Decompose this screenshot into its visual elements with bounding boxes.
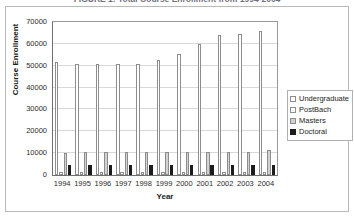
bar-group (196, 22, 216, 175)
bar-group (155, 22, 175, 175)
bar-undergraduate-1995 (75, 64, 78, 175)
chart-legend: UndergraduatePostBachMastersDoctoral (287, 90, 353, 141)
y-tick-label: 0 (43, 170, 47, 179)
legend-item-undergraduate[interactable]: Undergraduate (290, 93, 349, 104)
legend-item-postbach[interactable]: PostBach (290, 104, 349, 115)
x-tick-label: 1997 (115, 179, 132, 188)
bar-masters-2002 (227, 152, 230, 175)
bar-masters-1994 (64, 153, 67, 175)
legend-item-doctoral[interactable]: Doctoral (290, 126, 349, 137)
legend-label: Doctoral (299, 126, 327, 137)
bar-masters-2004 (267, 150, 270, 175)
bar-doctoral-1994 (68, 165, 71, 175)
legend-swatch-icon (290, 129, 296, 135)
x-tick-label: 2001 (196, 179, 213, 188)
bar-doctoral-2000 (190, 165, 193, 175)
x-tick-label: 1996 (95, 179, 112, 188)
bar-doctoral-1996 (109, 165, 112, 175)
x-tick-label: 2004 (257, 179, 274, 188)
bar-masters-2000 (186, 152, 189, 175)
bar-postbach-2004 (263, 172, 266, 175)
bar-postbach-2000 (182, 172, 185, 175)
y-tick-label: 60000 (26, 38, 47, 47)
bar-undergraduate-2002 (218, 35, 221, 175)
y-tick-label: 40000 (26, 82, 47, 91)
bar-group (257, 22, 277, 175)
bar-doctoral-1997 (129, 165, 132, 175)
bar-masters-1996 (104, 152, 107, 175)
legend-swatch-icon (290, 96, 296, 102)
y-tick-label: 30000 (26, 104, 47, 113)
bar-doctoral-1999 (170, 165, 173, 175)
x-tick-label: 2000 (176, 179, 193, 188)
bar-group (53, 22, 73, 175)
bar-postbach-2003 (243, 172, 246, 175)
bar-group (216, 22, 236, 175)
y-tick-label: 50000 (26, 60, 47, 69)
bar-undergraduate-1997 (116, 64, 119, 175)
legend-item-masters[interactable]: Masters (290, 115, 349, 126)
chart-title: FIGURE 1: Total Course Enrollment from 1… (0, 0, 354, 4)
y-tick-label: 20000 (26, 126, 47, 135)
bar-doctoral-1995 (88, 165, 91, 175)
legend-swatch-icon (290, 118, 296, 124)
legend-label: PostBach (299, 104, 331, 115)
bar-undergraduate-1998 (136, 64, 139, 175)
bar-undergraduate-1999 (157, 60, 160, 175)
bar-masters-1995 (84, 152, 87, 175)
bar-postbach-1997 (120, 172, 123, 175)
x-tick-label: 1994 (54, 179, 71, 188)
chart-frame: Course Enrollment 0100002000030000400005… (5, 6, 349, 212)
bar-undergraduate-2001 (198, 44, 201, 175)
bar-undergraduate-2004 (259, 31, 262, 175)
bar-masters-2003 (247, 152, 250, 175)
bar-group (114, 22, 134, 175)
bar-group (175, 22, 195, 175)
y-tick-label: 70000 (26, 17, 47, 26)
bar-doctoral-2002 (231, 165, 234, 175)
bar-group (236, 22, 256, 175)
bar-doctoral-1998 (149, 165, 152, 175)
y-tick-label: 10000 (26, 148, 47, 157)
bar-postbach-1998 (141, 172, 144, 175)
x-tick-label: 1995 (74, 179, 91, 188)
x-tick-label: 2002 (217, 179, 234, 188)
bar-group (134, 22, 154, 175)
figure-container: FIGURE 1: Total Course Enrollment from 1… (0, 0, 354, 217)
x-axis-tick-labels: 1994199519961997199819992000200120022003… (52, 177, 278, 191)
plot-area (52, 21, 278, 176)
bar-postbach-1994 (59, 172, 62, 175)
y-axis-tick-labels: 010000200003000040000500006000070000 (6, 21, 50, 176)
bar-postbach-2002 (222, 172, 225, 175)
bar-postbach-1996 (100, 172, 103, 175)
x-tick-label: 1998 (135, 179, 152, 188)
bar-masters-1997 (125, 152, 128, 175)
legend-label: Masters (299, 115, 326, 126)
x-tick-label: 1999 (156, 179, 173, 188)
bar-undergraduate-2000 (177, 54, 180, 175)
bar-undergraduate-1996 (96, 64, 99, 175)
bar-masters-1998 (145, 152, 148, 175)
x-axis-title: Year (52, 192, 278, 201)
bar-group (94, 22, 114, 175)
bar-doctoral-2004 (272, 165, 275, 175)
bar-undergraduate-1994 (55, 62, 58, 175)
bar-doctoral-2001 (210, 165, 213, 175)
bar-group (73, 22, 93, 175)
bar-undergraduate-2003 (238, 34, 241, 175)
bar-doctoral-2003 (251, 165, 254, 175)
bar-postbach-1995 (80, 172, 83, 175)
bar-postbach-1999 (161, 172, 164, 175)
bar-masters-2001 (206, 152, 209, 175)
legend-label: Undergraduate (299, 93, 349, 104)
legend-swatch-icon (290, 107, 296, 113)
x-tick-label: 2003 (237, 179, 254, 188)
bar-masters-1999 (165, 152, 168, 175)
bar-postbach-2001 (202, 172, 205, 175)
